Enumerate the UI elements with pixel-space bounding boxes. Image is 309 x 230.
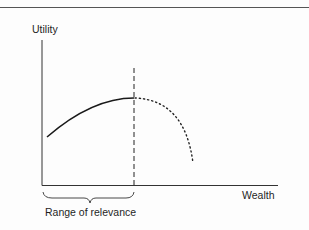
figure-page: Utility Wealth Range of relevance xyxy=(0,0,309,230)
range-of-relevance-label: Range of relevance xyxy=(45,207,136,218)
x-axis-label: Wealth xyxy=(242,190,275,201)
utility-curve-solid xyxy=(47,98,134,137)
utility-curve-dotted xyxy=(135,98,193,163)
range-brace-icon xyxy=(43,192,134,203)
y-axis-label: Utility xyxy=(32,24,58,35)
